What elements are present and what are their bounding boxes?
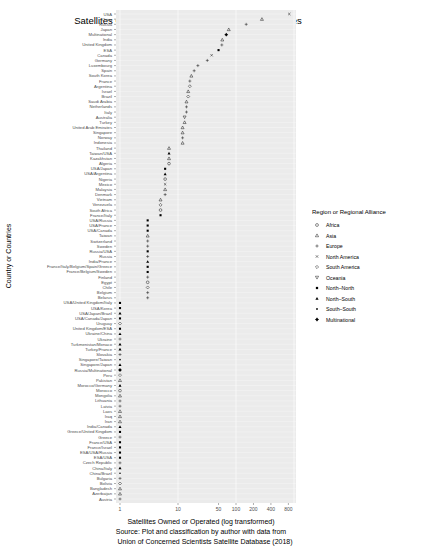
circle-marker-icon (316, 224, 319, 227)
x-tick-label: 50 (216, 506, 222, 512)
legend-item: Asia (315, 233, 336, 239)
legend-item-label: South–South (326, 306, 356, 312)
satellite-dot-plot: Satellites Owned or Operated by Country … (0, 0, 424, 554)
square-marker-icon (147, 250, 149, 252)
plus-marker-icon (315, 244, 318, 247)
triangle-marker-icon (315, 234, 318, 237)
legend-item-label: Europe (326, 243, 343, 249)
square-marker-icon (159, 214, 161, 216)
legend-item-label: North America (326, 254, 359, 260)
filled-triangle-marker-icon (315, 297, 318, 300)
x-axis-ticks: 11050100200400800 (119, 503, 293, 512)
legend-title: Region or Regional Alliance (312, 209, 386, 215)
square-marker-icon (316, 287, 318, 289)
square-marker-icon (217, 49, 219, 51)
legend-item: North–North (316, 285, 354, 291)
legend-item: North America (316, 254, 359, 260)
y-axis-title: Country or Countries (5, 223, 13, 288)
legend-item-label: Oceania (326, 275, 345, 281)
diamond-marker-icon (315, 265, 318, 268)
caption-line-2: Union of Concerned Scientists Satellite … (117, 538, 292, 546)
dot-marker-icon (119, 472, 121, 474)
legend-item-label: Asia (326, 233, 336, 239)
square-marker-icon (164, 168, 166, 170)
cross-marker-icon (316, 255, 319, 258)
square-marker-icon (119, 446, 121, 448)
square-marker-icon (119, 328, 121, 330)
square-marker-icon (119, 441, 121, 443)
square-marker-icon (147, 271, 149, 273)
square-marker-icon (119, 302, 121, 304)
square-marker-icon (147, 219, 149, 221)
legend-item: South–South (316, 306, 356, 312)
triangle-down-marker-icon (315, 276, 318, 279)
y-tick-label: Austria (99, 497, 113, 502)
square-marker-icon (147, 230, 149, 232)
legend-item: Europe (315, 243, 342, 249)
legend: Region or Regional Alliance AfricaAsiaEu… (312, 209, 386, 323)
square-marker-icon (119, 317, 121, 319)
x-tick-label: 200 (249, 506, 258, 512)
square-marker-icon (147, 266, 149, 268)
legend-item-label: North–North (326, 285, 354, 291)
x-tick-label: 10 (175, 506, 181, 512)
legend-item-label: South America (326, 264, 360, 270)
dot-marker-icon (316, 308, 318, 310)
legend-item-label: North–South (326, 296, 355, 302)
legend-item-label: Multinational (326, 317, 355, 323)
plot-panel (116, 10, 296, 503)
x-tick-label: 1 (119, 506, 122, 512)
x-tick-label: 100 (232, 506, 241, 512)
dot-marker-icon (119, 359, 121, 361)
diamond-plus-marker-icon (315, 318, 319, 322)
square-marker-icon (147, 224, 149, 226)
legend-item-label: Africa (326, 222, 339, 228)
x-tick-label: 400 (267, 506, 276, 512)
legend-item: Multinational (315, 317, 355, 323)
square-marker-icon (119, 452, 121, 454)
caption-line-1: Source: Plot and classification by autho… (116, 528, 287, 536)
chart-svg: Satellites Owned or Operated by Country … (0, 0, 424, 554)
y-axis-labels: USAChinaRussiaJapanMultinationalIndiaUni… (47, 12, 116, 502)
legend-item: North–South (315, 296, 355, 302)
x-axis-title: Satellites Owned or Operated (log transf… (127, 518, 274, 526)
legend-item: Oceania (315, 275, 345, 281)
legend-item: Africa (316, 222, 340, 228)
square-marker-icon (119, 457, 121, 459)
legend-item: South America (315, 264, 359, 270)
square-marker-icon (119, 307, 121, 309)
square-marker-icon (119, 431, 121, 433)
x-tick-label: 800 (284, 506, 293, 512)
